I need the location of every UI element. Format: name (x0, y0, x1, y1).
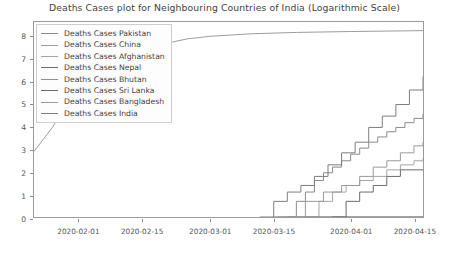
x-tick-label: 2020-04-01 (330, 227, 372, 236)
x-tick-mark (351, 219, 352, 222)
legend-item[interactable]: Deaths Cases Bangladesh (41, 96, 165, 107)
y-tick-label: 4 (21, 123, 26, 132)
legend-label: Deaths Cases Afghanistan (64, 51, 165, 62)
legend-item[interactable]: Deaths Cases Afghanistan (41, 51, 165, 62)
chart-legend: Deaths Cases PakistanDeaths Cases ChinaD… (36, 24, 172, 123)
legend-label: Deaths Cases Bhutan (64, 74, 147, 85)
legend-line-icon (41, 102, 58, 103)
y-axis: 012345678 (0, 21, 33, 219)
legend-item[interactable]: Deaths Cases China (41, 39, 165, 50)
x-tick-label: 2020-04-15 (394, 227, 436, 236)
series-line (305, 159, 423, 217)
y-tick-label: 8 (21, 31, 26, 40)
y-tick-label: 7 (21, 54, 26, 63)
legend-label: Deaths Cases India (64, 108, 138, 119)
x-tick-mark (415, 219, 416, 222)
legend-label: Deaths Cases Sri Lanka (64, 85, 154, 96)
legend-line-icon (41, 113, 58, 114)
legend-item[interactable]: Deaths Cases Pakistan (41, 28, 165, 39)
x-tick-mark (210, 219, 211, 222)
footer-artifact (150, 242, 449, 253)
x-tick-label: 2020-02-01 (57, 227, 99, 236)
chart-figure: Deaths Cases plot for Neighbouring Count… (0, 0, 449, 253)
legend-label: Deaths Cases Nepal (64, 62, 141, 73)
legend-item[interactable]: Deaths Cases Bhutan (41, 74, 165, 85)
legend-line-icon (41, 33, 58, 34)
series-line (287, 142, 423, 217)
legend-line-icon (41, 56, 58, 57)
y-tick-label: 0 (21, 215, 26, 224)
chart-title: Deaths Cases plot for Neighbouring Count… (0, 2, 449, 13)
series-line (260, 77, 423, 217)
y-tick-label: 5 (21, 100, 26, 109)
legend-item[interactable]: Deaths Cases Nepal (41, 62, 165, 73)
y-tick-label: 2 (21, 169, 26, 178)
legend-label: Deaths Cases Bangladesh (64, 96, 164, 107)
y-tick-label: 1 (21, 192, 26, 201)
x-tick-label: 2020-03-15 (253, 227, 295, 236)
legend-label: Deaths Cases China (64, 39, 141, 50)
x-tick-mark (78, 219, 79, 222)
legend-line-icon (41, 79, 58, 80)
legend-label: Deaths Cases Pakistan (64, 28, 151, 39)
legend-line-icon (41, 90, 58, 91)
x-tick-mark (142, 219, 143, 222)
x-tick-label: 2020-02-15 (121, 227, 163, 236)
legend-item[interactable]: Deaths Cases Sri Lanka (41, 85, 165, 96)
x-tick-label: 2020-03-01 (189, 227, 231, 236)
x-tick-mark (274, 219, 275, 222)
legend-line-icon (41, 45, 58, 46)
y-tick-label: 3 (21, 146, 26, 155)
legend-item[interactable]: Deaths Cases India (41, 108, 165, 119)
y-tick-label: 6 (21, 77, 26, 86)
legend-line-icon (41, 67, 58, 68)
